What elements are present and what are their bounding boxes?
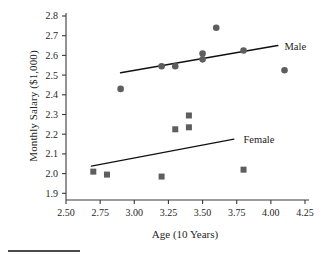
x-tick-label: 3.00 xyxy=(126,207,144,218)
footer-rule xyxy=(8,250,80,252)
y-tick-label: 2.5 xyxy=(46,70,59,81)
data-point-female xyxy=(159,174,165,180)
data-point-male xyxy=(158,63,165,70)
y-tick-label: 2.4 xyxy=(46,89,59,100)
scatter-plot-figure: Monthly Salary ($1,000) Age (10 Years) 2… xyxy=(0,0,330,257)
data-point-female xyxy=(186,112,192,118)
data-point-female xyxy=(172,126,178,132)
data-point-male xyxy=(281,67,288,74)
x-tick-label: 3.75 xyxy=(228,207,246,218)
x-tick-label: 2.50 xyxy=(57,207,75,218)
series-labels: MaleFemale xyxy=(244,41,307,145)
data-point-male xyxy=(199,56,206,63)
regression-line-male xyxy=(121,46,278,73)
data-points xyxy=(90,25,288,180)
x-axis-ticks: 2.502.753.003.253.503.754.004.25 xyxy=(57,200,314,218)
data-point-male xyxy=(213,25,220,32)
y-tick-label: 2.0 xyxy=(46,168,59,179)
x-tick-label: 4.25 xyxy=(296,207,314,218)
y-tick-label: 1.9 xyxy=(46,188,59,199)
y-tick-label: 2.8 xyxy=(46,10,59,21)
data-point-male xyxy=(199,50,206,57)
data-point-female xyxy=(104,172,110,178)
y-axis-ticks: 2.82.72.62.52.42.32.22.12.01.9 xyxy=(46,10,67,198)
x-axis-title: Age (10 Years) xyxy=(60,228,310,240)
y-axis-title: Monthly Salary ($1,000) xyxy=(27,26,39,186)
data-point-female xyxy=(186,124,192,130)
data-point-female xyxy=(90,169,96,175)
series-label-female: Female xyxy=(244,134,275,145)
y-tick-label: 2.6 xyxy=(46,50,59,61)
x-tick-label: 2.75 xyxy=(91,207,109,218)
y-tick-label: 2.1 xyxy=(46,148,59,159)
regression-line-female xyxy=(91,139,234,166)
y-tick-label: 2.2 xyxy=(46,129,59,140)
data-point-male xyxy=(240,47,247,54)
data-point-male xyxy=(172,63,179,70)
x-tick-label: 3.50 xyxy=(194,207,212,218)
y-tick-label: 2.7 xyxy=(46,30,59,41)
plot-canvas: 2.82.72.62.52.42.32.22.12.01.9 2.502.753… xyxy=(0,0,330,257)
data-point-female xyxy=(241,167,247,173)
regression-lines xyxy=(91,46,277,167)
y-tick-label: 2.3 xyxy=(46,109,59,120)
data-point-male xyxy=(117,86,124,93)
series-label-male: Male xyxy=(285,41,307,52)
x-tick-label: 3.25 xyxy=(160,207,178,218)
x-tick-label: 4.00 xyxy=(262,207,280,218)
